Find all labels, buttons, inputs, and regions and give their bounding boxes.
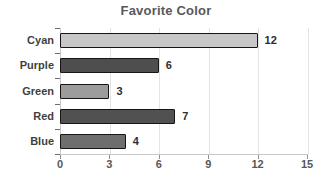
y-axis-tick-2 [55,78,60,79]
x-tick-label-0: 0 [48,158,72,170]
bar-red [60,109,175,124]
value-label-blue: 4 [133,134,139,149]
favorite-color-bar-chart: Favorite Color 03691215Cyan12Purple6Gree… [0,0,332,175]
category-label-purple: Purple [0,58,54,73]
value-label-cyan: 12 [265,33,277,48]
value-label-red: 7 [182,109,188,124]
bar-blue [60,134,126,149]
x-tick-label-6: 6 [147,158,171,170]
y-axis-tick-1 [55,53,60,54]
x-tick-label-9: 9 [196,158,220,170]
x-tick-label-3: 3 [97,158,121,170]
category-label-green: Green [0,84,54,99]
category-label-cyan: Cyan [0,33,54,48]
y-axis-tick-5 [55,154,60,155]
bar-green [60,84,109,99]
category-label-red: Red [0,109,54,124]
bar-cyan [60,33,258,48]
y-axis-tick-4 [55,129,60,130]
y-axis-tick-0 [55,28,60,29]
bar-purple [60,58,159,73]
y-axis-tick-3 [55,104,60,105]
value-label-green: 3 [116,84,122,99]
x-tick-label-15: 15 [295,158,319,170]
category-label-blue: Blue [0,134,54,149]
chart-title: Favorite Color [0,3,332,18]
value-label-purple: 6 [166,58,172,73]
x-tick-label-12: 12 [246,158,270,170]
gridline-x-12 [258,28,259,154]
gridline-x-15 [308,28,309,154]
